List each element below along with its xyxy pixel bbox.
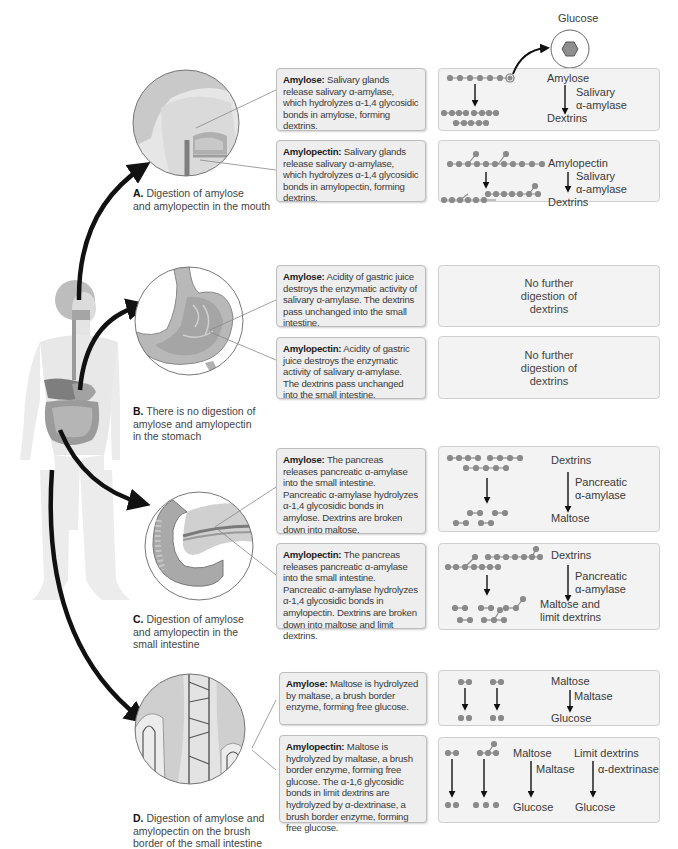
- amylose-start-d: Maltose: [551, 675, 590, 688]
- maltose-start-d: Maltose: [513, 747, 552, 760]
- glucose-end-left-d: Glucose: [513, 801, 553, 814]
- amylose-enzyme-d: Maltase: [574, 690, 613, 703]
- amylopectin-textbox-d: Amylopectin: Maltose is hydrolyzed by ma…: [279, 735, 427, 823]
- glucose-end-right-d: Glucose: [575, 801, 615, 814]
- alpha-dextrinase-enzyme-d: α-dextrinase: [598, 763, 659, 776]
- maltase-enzyme-d: Maltase: [536, 763, 575, 776]
- amylose-end-d: Glucose: [551, 712, 591, 725]
- maltose-diagram-d: [438, 670, 660, 726]
- amylose-textbox-d: Amylose: Maltose is hydrolyzed by maltas…: [279, 672, 427, 725]
- limit-dextrins-start-d: Limit dextrins: [574, 747, 639, 760]
